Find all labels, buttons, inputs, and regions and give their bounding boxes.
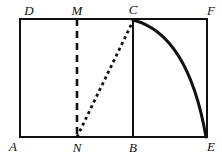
vertex-label-D: D: [24, 4, 33, 17]
rectangle-ADFE: [20, 19, 207, 137]
segment-NC: [77, 21, 133, 137]
vertex-label-E: E: [207, 140, 215, 153]
geometry-figure: D M C F A N B E: [0, 0, 222, 154]
curve-CE: [133, 20, 206, 137]
vertex-label-C: C: [129, 3, 138, 16]
vertex-label-M: M: [72, 4, 83, 17]
figure-canvas: [0, 0, 222, 154]
vertex-label-B: B: [129, 141, 137, 154]
vertex-label-N: N: [73, 141, 82, 154]
vertex-label-F: F: [207, 4, 215, 17]
vertex-label-A: A: [9, 140, 17, 153]
